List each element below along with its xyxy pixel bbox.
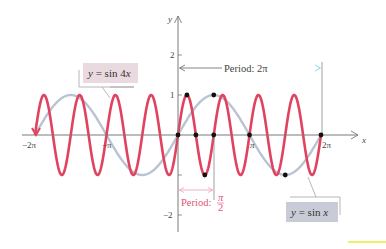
y-tick-label-2: 2	[170, 50, 175, 60]
data-point	[211, 133, 216, 138]
sin4x-label-text: y = sin 4x	[87, 67, 131, 79]
data-point	[176, 133, 181, 138]
data-point	[283, 173, 288, 178]
x-axis-label: x	[361, 135, 366, 145]
data-point	[193, 133, 198, 138]
sinx-label-pointer	[308, 177, 316, 197]
sin4x-label-pointer	[102, 87, 110, 98]
data-point	[202, 173, 207, 178]
period-2pi-label: Period: 2π	[224, 63, 268, 74]
data-point	[211, 93, 216, 98]
y-axis-label: y	[167, 14, 172, 24]
y-tick-label-neg2: −2	[163, 210, 173, 220]
x-tick-label-2pi: 2π	[322, 140, 332, 150]
data-point	[319, 133, 324, 138]
x-tick-label-pi: π	[250, 140, 255, 150]
data-point	[185, 93, 190, 98]
period-pi2-denominator: 2	[218, 202, 223, 213]
x-tick-label-neg2pi: −2π	[22, 140, 37, 150]
y-tick-label-1: 1	[170, 90, 175, 100]
sinx-label-text: y = sin x	[290, 206, 328, 218]
data-point	[247, 133, 252, 138]
x-tick-label-negpi: −π	[102, 140, 112, 150]
period-pi2-label: Period:	[181, 197, 211, 208]
sine-comparison-chart: y x 2 1 −2 −2π −π π 2π Period: 2π Period…	[0, 0, 386, 249]
